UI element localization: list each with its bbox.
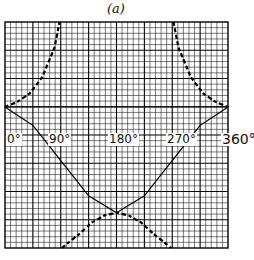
- x-tick-270: 270°: [166, 133, 197, 146]
- x-tick-90: 90°: [48, 133, 71, 146]
- x-tick-0: 0°: [6, 133, 22, 146]
- plot-area: [0, 0, 254, 260]
- x-tick-180: 180°: [108, 133, 139, 146]
- dashed-curve-upper-right: [173, 22, 228, 107]
- dashed-curve-upper-left: [5, 22, 60, 107]
- x-tick-360: 360°: [221, 133, 254, 146]
